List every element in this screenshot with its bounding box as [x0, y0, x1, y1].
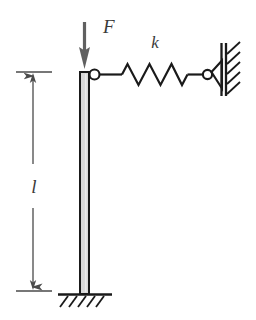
applied-force: F	[79, 16, 115, 69]
ground-hatching	[60, 296, 104, 307]
dimension-length: l	[16, 72, 52, 291]
column-body	[80, 72, 89, 294]
column-member	[80, 72, 89, 294]
fixed-base-support	[58, 295, 112, 308]
length-label: l	[31, 176, 36, 197]
pin-support	[203, 61, 222, 89]
engineering-diagram: l F	[0, 0, 256, 320]
spring-zigzag-icon	[122, 64, 188, 85]
wall-hatching	[227, 42, 240, 94]
wall-support	[222, 42, 241, 96]
pin-support-circle-icon	[203, 70, 212, 79]
figure-container: l F	[0, 0, 256, 320]
force-label: F	[102, 16, 115, 37]
spring-element	[100, 64, 206, 85]
top-hinge	[90, 70, 100, 80]
spring-stiffness-label: k	[151, 33, 159, 52]
hinge-circle-icon	[90, 70, 100, 80]
